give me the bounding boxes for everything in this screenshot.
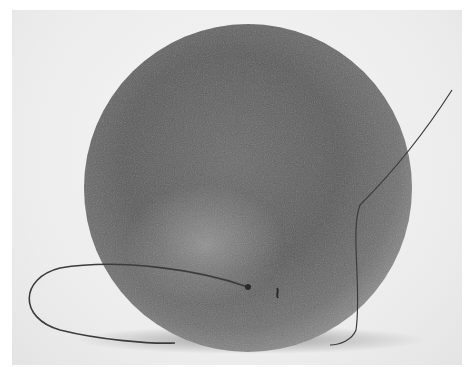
image-frame xyxy=(0,0,464,367)
scene xyxy=(0,0,464,367)
pore-mark-2 xyxy=(277,288,278,298)
sphere-texture xyxy=(84,24,412,352)
pore-mark xyxy=(245,284,251,290)
